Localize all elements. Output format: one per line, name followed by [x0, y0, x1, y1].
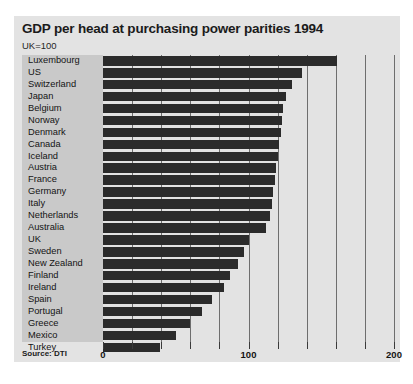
- bar: [103, 68, 302, 78]
- category-label: Sweden: [28, 246, 62, 258]
- bar-row: Switzerland: [22, 79, 394, 91]
- bar: [103, 163, 276, 173]
- axis-tick-20: [132, 342, 133, 349]
- category-label: Belgium: [28, 103, 62, 115]
- bar-row: Germany: [22, 186, 394, 198]
- bar-row: Iceland: [22, 151, 394, 163]
- bar: [103, 223, 266, 233]
- bar-row: Australia: [22, 222, 394, 234]
- bar: [103, 307, 202, 317]
- category-label: Switzerland: [28, 79, 76, 91]
- gridline-200: [394, 55, 395, 342]
- plot-area: LuxembourgUSSwitzerlandJapanBelgiumNorwa…: [22, 55, 394, 342]
- bar-row: Luxembourg: [22, 55, 394, 67]
- bar: [103, 152, 278, 162]
- axis-label-0: 0: [100, 349, 105, 360]
- axis-label-100: 100: [241, 349, 257, 360]
- bar: [103, 247, 244, 257]
- bar-row: Belgium: [22, 103, 394, 115]
- bar: [103, 259, 238, 269]
- bar-row: Denmark: [22, 127, 394, 139]
- source-note: Source: DTI: [22, 349, 67, 358]
- category-label: Norway: [28, 115, 60, 127]
- bar-row: France: [22, 174, 394, 186]
- bar: [103, 235, 249, 245]
- category-label: Germany: [28, 186, 66, 198]
- category-label: Denmark: [28, 127, 66, 139]
- bar: [103, 319, 190, 329]
- chart-subtitle: UK=100: [22, 40, 57, 51]
- category-label: Greece: [28, 318, 59, 330]
- bar: [103, 80, 292, 90]
- bar-row: Japan: [22, 91, 394, 103]
- bar-row: UK: [22, 234, 394, 246]
- bar-row: US: [22, 67, 394, 79]
- category-label: Mexico: [28, 330, 57, 342]
- bar: [103, 199, 272, 209]
- bar-row: Netherlands: [22, 210, 394, 222]
- category-label: Netherlands: [28, 210, 78, 222]
- axis-tick-0: [103, 342, 104, 349]
- bar: [103, 140, 279, 150]
- category-label: US: [28, 67, 41, 79]
- axis-tick-120: [278, 342, 279, 349]
- axis-tick-200: [394, 342, 395, 349]
- bar-row: Italy: [22, 198, 394, 210]
- axis-tick-60: [190, 342, 191, 349]
- bar-row: Norway: [22, 115, 394, 127]
- bar-row: Ireland: [22, 282, 394, 294]
- bar: [103, 331, 176, 341]
- bar-row: Greece: [22, 318, 394, 330]
- category-label: France: [28, 174, 57, 186]
- category-label: UK: [28, 234, 41, 246]
- category-label: Portugal: [28, 306, 63, 318]
- axis-tick-160: [336, 342, 337, 349]
- axis-label-200: 200: [386, 349, 402, 360]
- bar: [103, 283, 224, 293]
- bar-row: New Zealand: [22, 258, 394, 270]
- category-label: Canada: [28, 139, 61, 151]
- x-axis: 0100200: [22, 342, 394, 362]
- axis-tick-100: [249, 342, 250, 349]
- bar: [103, 116, 282, 126]
- axis-tick-80: [219, 342, 220, 349]
- chart-title: GDP per head at purchasing power paritie…: [22, 21, 323, 36]
- bar: [103, 92, 286, 102]
- bar-row: Sweden: [22, 246, 394, 258]
- bar: [103, 295, 212, 305]
- category-label: Ireland: [28, 282, 56, 294]
- category-label: New Zealand: [28, 258, 83, 270]
- bar-row: Austria: [22, 162, 394, 174]
- bar-row: Mexico: [22, 330, 394, 342]
- bar-row: Finland: [22, 270, 394, 282]
- category-label: Finland: [28, 270, 59, 282]
- bar-row: Portugal: [22, 306, 394, 318]
- bar: [103, 104, 283, 114]
- axis-tick-40: [161, 342, 162, 349]
- bar: [103, 211, 270, 221]
- category-label: Iceland: [28, 151, 58, 163]
- bar-row: Canada: [22, 139, 394, 151]
- chart-figure: GDP per head at purchasing power paritie…: [14, 16, 400, 362]
- category-label: Italy: [28, 198, 45, 210]
- category-label: Japan: [28, 91, 53, 103]
- category-label: Luxembourg: [28, 55, 80, 67]
- bar: [103, 128, 281, 138]
- category-label: Spain: [28, 294, 52, 306]
- bar-rows: LuxembourgUSSwitzerlandJapanBelgiumNorwa…: [22, 55, 394, 342]
- bar-row: Spain: [22, 294, 394, 306]
- axis-tick-140: [307, 342, 308, 349]
- category-label: Australia: [28, 222, 64, 234]
- bar: [103, 175, 275, 185]
- bar: [103, 56, 337, 66]
- axis-tick-180: [365, 342, 366, 349]
- bar: [103, 271, 230, 281]
- bar: [103, 187, 273, 197]
- category-label: Austria: [28, 162, 57, 174]
